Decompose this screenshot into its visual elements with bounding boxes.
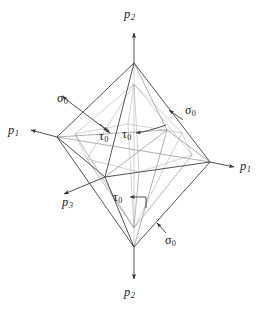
label-sigma0-lower-right: σ0 xyxy=(165,234,176,248)
axis-p1-right xyxy=(210,162,234,167)
label-tau0-left: τ0 xyxy=(99,130,108,144)
inner-edge-up-6 xyxy=(87,84,134,159)
edge-left-back xyxy=(57,130,167,137)
edge-top-back xyxy=(134,63,167,130)
label-sigma0-upper-left: σ0 xyxy=(57,92,68,106)
label-sigma0-upper-right: σ0 xyxy=(185,104,196,118)
leader-sigma-upper-right xyxy=(169,110,183,120)
figure-container: p2 p2 p1 p1 p3 σ0 σ0 σ0 τ0 τ0 τ0 xyxy=(0,0,267,311)
inner-edge-up-2 xyxy=(128,84,134,124)
leader-sigma-lower-right xyxy=(157,223,166,233)
label-tau0-right: τ0 xyxy=(122,128,131,142)
axis-label-p2-bottom: p2 xyxy=(124,286,135,300)
axis-label-p3-front: p3 xyxy=(62,196,73,210)
axis-label-p1-right: p1 xyxy=(240,160,251,174)
axis-label-p1-left: p1 xyxy=(8,124,19,138)
inner-edge-up-5 xyxy=(134,84,139,172)
octahedron-diagram xyxy=(0,0,267,311)
edge-top-left xyxy=(57,63,134,137)
edge-bottom-back xyxy=(134,130,167,247)
edge-top-front xyxy=(105,63,134,177)
edge-left-right-diag xyxy=(57,137,210,162)
edge-back-right xyxy=(167,130,210,162)
axis-p3-front xyxy=(64,177,105,194)
inner-edge-dn-3 xyxy=(134,133,182,228)
label-tau0-bottom: τ0 xyxy=(113,191,122,205)
axis-p1-left xyxy=(31,130,57,137)
axis-label-p2-top: p2 xyxy=(124,8,135,22)
inner-edge-dn-6 xyxy=(87,159,134,228)
inner-edge-up-3 xyxy=(134,84,182,133)
